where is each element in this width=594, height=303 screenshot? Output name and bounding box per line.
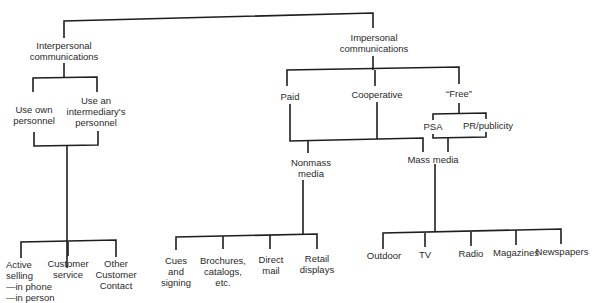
node-nonmass-media: Nonmass media — [291, 157, 331, 179]
node-cooperative: Cooperative — [351, 89, 402, 100]
node-use-intermediary-personnel: Use an intermediary's personnel — [67, 95, 126, 128]
node-paid: Paid — [280, 91, 299, 102]
node-brochures-catalogs: Brochures, catalogs, etc. — [200, 255, 246, 288]
node-other-customer-contact: Other Customer Contact — [95, 258, 136, 291]
node-pr-publicity: PR/publicity — [463, 120, 513, 131]
node-mass-media: Mass media — [407, 154, 458, 165]
node-psa: PSA — [423, 121, 442, 132]
node-interpersonal-communications: Interpersonal communications — [30, 40, 99, 62]
node-retail-displays: Retail displays — [300, 253, 334, 275]
node-customer-service: Customer service — [47, 258, 88, 280]
node-cues-and-signing: Cues and signing — [161, 255, 191, 288]
node-magazines: Magazines — [493, 247, 539, 258]
node-newspapers: Newspapers — [536, 246, 589, 257]
node-outdoor: Outdoor — [367, 250, 401, 261]
node-direct-mail: Direct mail — [259, 254, 284, 276]
node-free: “Free” — [446, 88, 472, 99]
node-impersonal-communications: Impersonal communications — [340, 32, 409, 54]
node-tv: TV — [419, 249, 431, 260]
node-use-own-personnel: Use own personnel — [13, 104, 55, 126]
node-radio: Radio — [459, 248, 484, 259]
